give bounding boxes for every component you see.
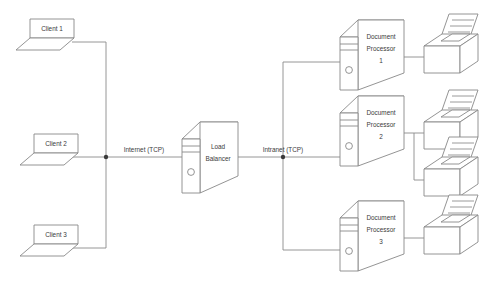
client-1-label: Client 1 [41, 25, 63, 32]
client-1-base [16, 38, 74, 50]
document-processor-2[interactable]: Document Processor 2 [340, 96, 404, 166]
printer-1-front-face [424, 46, 460, 73]
document-processor-3-side-face [358, 201, 404, 271]
junction-dot-intranet [281, 155, 285, 159]
document-processor-2-power-icon [346, 143, 353, 150]
load-balancer-label-line2: Balancer [205, 155, 231, 162]
internet-link-label: Internet (TCP) [124, 146, 165, 154]
document-processor-2-side-face [358, 96, 404, 166]
load-balancer-label-line1: Load [211, 143, 226, 150]
load-balancer-power-icon [188, 169, 195, 176]
load-balancer[interactable]: Load Balancer [182, 122, 238, 193]
document-processor-1[interactable]: Document Processor 1 [340, 20, 404, 90]
document-processor-3-label-line3: 3 [379, 238, 383, 245]
document-processor-3-label-line2: Processor [367, 226, 397, 233]
load-balancer-front-face [182, 139, 200, 193]
document-processor-1-power-icon [346, 67, 353, 74]
document-processor-3[interactable]: Document Processor 3 [340, 201, 404, 271]
printer-4-front-face [424, 227, 460, 254]
intranet-link-label: Intranet (TCP) [263, 146, 304, 154]
printer-4[interactable] [424, 195, 478, 254]
intranet-wiring [238, 62, 340, 250]
document-processor-2-label-line1: Document [366, 109, 395, 116]
client-3-base [20, 244, 78, 256]
client-2-label: Client 2 [45, 140, 67, 147]
document-processor-2-label-line2: Processor [367, 121, 397, 128]
document-processor-1-label-line3: 1 [379, 57, 383, 64]
client-2[interactable]: Client 2 [20, 134, 78, 165]
document-processor-1-side-face [358, 20, 404, 90]
document-processor-1-label-line1: Document [366, 33, 395, 40]
client-1[interactable]: Client 1 [16, 19, 74, 50]
client-3-label: Client 3 [45, 231, 67, 238]
document-processor-3-front-face [340, 218, 358, 271]
client-3[interactable]: Client 3 [20, 225, 78, 256]
junction-dot-internet [104, 155, 108, 159]
document-processor-3-label-line1: Document [366, 214, 395, 221]
network-diagram: Client 1 Client 2 Client 3 Internet (TCP… [0, 0, 487, 282]
document-processor-2-label-line3: 2 [379, 133, 383, 140]
client-2-base [20, 153, 78, 165]
diagram-canvas: Client 1 Client 2 Client 3 Internet (TCP… [0, 0, 487, 282]
document-processor-2-front-face [340, 113, 358, 166]
document-processor-1-label-line2: Processor [367, 45, 397, 52]
document-processor-1-front-face [340, 37, 358, 90]
printer-1[interactable] [424, 14, 478, 73]
wire-processor2-to-printers [404, 133, 424, 180]
printer-3-front-face [424, 169, 460, 196]
printer-wiring [404, 57, 424, 238]
document-processor-3-power-icon [346, 248, 353, 255]
